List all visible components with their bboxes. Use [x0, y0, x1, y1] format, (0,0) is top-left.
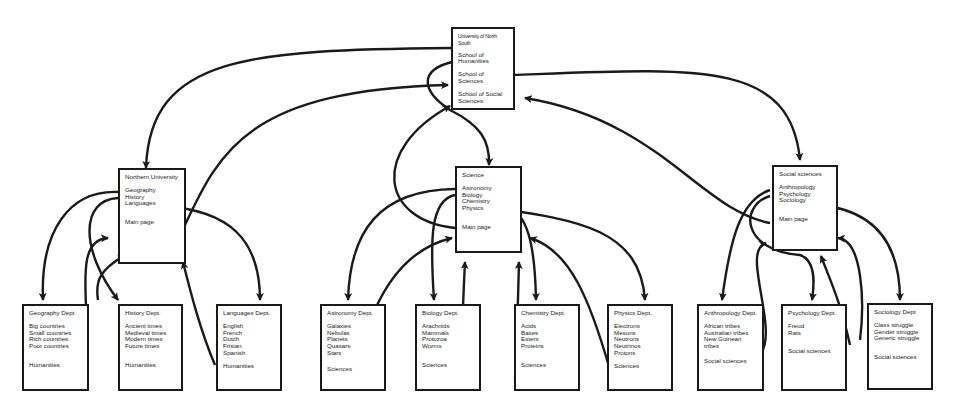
astronomy-dept-box: Astronomy Dept. Galaxies Nebulas Planets… — [320, 304, 386, 391]
link-main-page[interactable]: Main page — [125, 219, 179, 226]
science-box: Science Astronomy Biology Chemistry Phys… — [455, 166, 522, 253]
link-sciences[interactable]: Sciences — [614, 363, 666, 370]
link-science-main-to-top — [394, 106, 455, 228]
dept-title: Sociology Dept — [874, 309, 926, 316]
dept-title: Biology Dept. — [422, 310, 474, 317]
university-box: University of North South School of Huma… — [451, 27, 515, 110]
dept-title: Astronomy Dept. — [327, 310, 379, 317]
dept-title: Geography Dept — [29, 310, 82, 317]
link-northern-main-to-top — [185, 85, 448, 225]
dept-title: Chemistry Dept. — [521, 310, 573, 317]
dept-item[interactable]: Generic struggle — [874, 335, 926, 342]
chemistry-dept-box: Chemistry Dept. Acids Bases Esters Prote… — [514, 304, 580, 391]
dept-item[interactable]: Stars — [327, 350, 379, 357]
link-social-to-socialsci — [513, 71, 800, 160]
dept-item[interactable]: Worms — [422, 343, 474, 350]
dept-title: Psychology Dept. — [788, 310, 840, 317]
history-dept-box: History Dept. Ancient times Medieval tim… — [118, 304, 183, 391]
link-biology — [432, 195, 455, 300]
link-sciences[interactable]: Sciences — [422, 362, 474, 369]
link-sociology[interactable]: Sociology — [779, 197, 831, 204]
link-humanities[interactable]: Humanities — [29, 362, 82, 369]
link-school-of-humanities[interactable]: School of Humanities — [458, 52, 508, 66]
link-main-page[interactable]: Main page — [779, 216, 831, 223]
dept-item[interactable]: Protons — [614, 350, 666, 357]
anthropology-dept-box: Anthropology Dept. African tribes Austra… — [697, 304, 764, 391]
languages-dept-box: Languages Dept. English French Dutch Fri… — [216, 304, 282, 391]
physics-dept-box: Physics Dept. Electrons Mesons Neutrons … — [607, 304, 673, 391]
dept-title: Anthropology Dept. — [704, 310, 757, 317]
university-title: University of North South — [458, 33, 508, 47]
link-humanities[interactable]: Humanities — [223, 363, 275, 370]
dept-item[interactable]: New Guinean tribes — [704, 336, 744, 350]
dept-item[interactable]: Spanish — [223, 350, 275, 357]
link-lang-back — [183, 262, 215, 365]
link-physics[interactable]: Physics — [462, 205, 515, 212]
link-socialsci-main-to-top — [525, 98, 770, 223]
dept-item[interactable]: Poor countries — [29, 343, 82, 350]
link-social-sciences[interactable]: Social sciences — [874, 354, 926, 361]
dept-item[interactable]: Proteins — [521, 343, 573, 350]
school-title: Science — [462, 172, 515, 179]
link-social-sciences[interactable]: Social sciences — [704, 358, 757, 365]
northern-university-box: Northern University Geography History La… — [118, 168, 186, 264]
dept-title: History Dept. — [125, 310, 176, 317]
link-humanities[interactable]: Humanities — [125, 362, 176, 369]
social-sciences-box: Social sciences Anthropology Psychology … — [772, 165, 838, 251]
geography-dept-box: Geography Dept Big countries Small count… — [22, 304, 89, 391]
link-sciences[interactable]: Sciences — [327, 366, 379, 373]
dept-item[interactable]: Future times — [125, 343, 176, 350]
link-sciences[interactable]: Sciences — [521, 362, 573, 369]
sociology-dept-box: Sociology Dept Class struggle Gender str… — [867, 303, 933, 390]
school-title: Social sciences — [779, 171, 831, 178]
dept-title: Languages Dept. — [223, 310, 275, 317]
link-main-page[interactable]: Main page — [462, 224, 515, 231]
link-school-of-social-sciences[interactable]: School of Social Sciences — [458, 91, 508, 105]
link-languages[interactable]: Languages — [125, 200, 179, 207]
link-history — [90, 198, 119, 300]
link-astronomy — [348, 189, 455, 300]
dept-title: Physics Dept. — [614, 310, 666, 317]
biology-dept-box: Biology Dept. Arachnids Mammals Protozoa… — [415, 304, 481, 391]
dept-item[interactable]: Rats — [788, 330, 840, 337]
psychology-dept-box: Psychology Dept. Freud Rats Social scien… — [781, 304, 847, 391]
school-title: Northern University — [125, 174, 179, 181]
link-social-sciences[interactable]: Social sciences — [788, 348, 840, 355]
link-school-of-sciences[interactable]: School of Sciences — [458, 71, 508, 85]
